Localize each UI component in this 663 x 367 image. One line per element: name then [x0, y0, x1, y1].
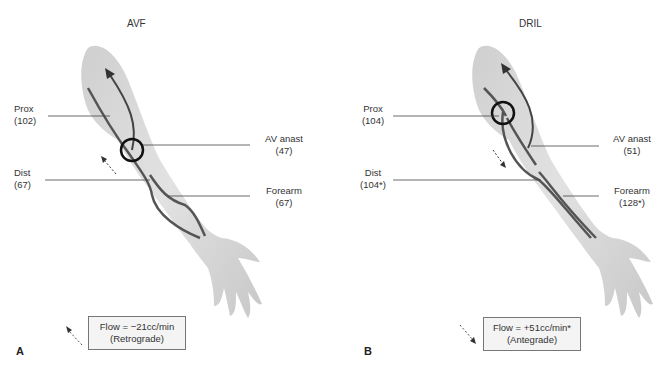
arm-illustration	[0, 0, 331, 367]
panel-title: DRIL	[519, 18, 542, 29]
panel-letter: B	[364, 345, 372, 357]
label-av-anast: AV anast (47)	[254, 133, 314, 157]
label-av-anast: AV anast (51)	[603, 133, 661, 157]
dashed-flow-arrow	[493, 150, 503, 164]
label-dist: Dist (104*)	[351, 167, 395, 191]
label-prox: Prox (102)	[14, 103, 36, 127]
flow-box: Flow = +51cc/min* (Antegrade)	[483, 317, 581, 351]
vein	[539, 172, 596, 238]
arrowhead-icon	[500, 161, 506, 168]
flow-box: Flow = −21cc/min (Retrograde)	[88, 316, 186, 350]
dashed-flow-arrow	[104, 160, 116, 174]
panel-a-avf: AVF Prox (102) Dist (67) AV anast (47) F…	[0, 0, 331, 367]
panel-letter: A	[16, 345, 24, 357]
arm-shape	[472, 46, 653, 318]
legend-dashed-arrow	[460, 325, 473, 340]
panel-title: AVF	[127, 18, 146, 29]
arrowhead-icon	[66, 326, 72, 333]
legend-dashed-arrow	[68, 330, 82, 345]
label-dist: Dist (67)	[14, 167, 31, 191]
label-forearm: Forearm (67)	[254, 185, 314, 209]
label-prox: Prox (104)	[353, 103, 393, 127]
panel-b-dril: DRIL Prox (104) Dist (104*) AV anast (51…	[331, 0, 662, 367]
arm-shape	[81, 46, 262, 318]
arrowhead-icon	[101, 156, 107, 163]
label-forearm: Forearm (128*)	[603, 185, 661, 209]
